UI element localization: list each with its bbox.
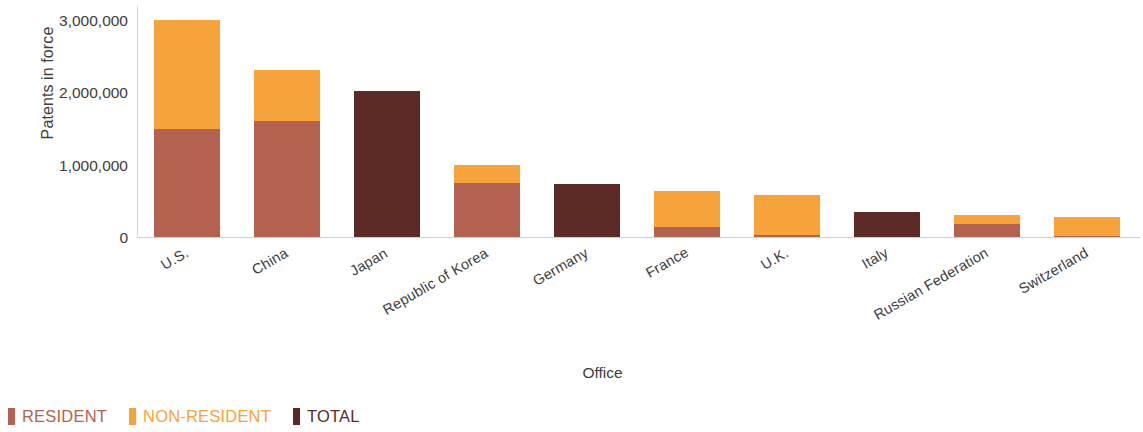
x-axis-tick-label: Republic of Korea — [380, 244, 491, 317]
bar-republic-of-korea[interactable] — [454, 165, 520, 238]
y-axis-tick-label: 3,000,000 — [8, 13, 128, 29]
x-axis-tick-label: Germany — [530, 244, 591, 288]
x-axis-ticks: U.S.ChinaJapanRepublic of KoreaGermanyFr… — [137, 238, 1140, 358]
bar-france[interactable] — [654, 191, 720, 237]
bar-segment-non-resident — [654, 191, 720, 227]
bar-germany[interactable] — [554, 184, 620, 237]
bar-u-k[interactable] — [754, 195, 820, 237]
bar-segment-non-resident — [454, 165, 520, 184]
x-axis-tick-label: China — [249, 244, 291, 277]
legend-label: RESIDENT — [22, 408, 107, 425]
bar-segment-non-resident — [754, 195, 820, 235]
legend-label: NON-RESIDENT — [143, 408, 271, 425]
bar-segment-non-resident — [1054, 217, 1120, 235]
bar-segment-non-resident — [154, 20, 220, 129]
x-axis-tick-label: U.S. — [158, 244, 191, 272]
y-axis-tick-label: 1,000,000 — [8, 158, 128, 174]
y-axis-tick-label: 0 — [8, 230, 128, 246]
bar-segment-total — [554, 184, 620, 237]
x-axis-title: Office — [0, 364, 1143, 382]
bar-segment-non-resident — [254, 70, 320, 122]
bar-segment-resident — [454, 183, 520, 237]
y-axis-tick-label: 2,000,000 — [8, 85, 128, 101]
legend-item-total[interactable]: TOTAL — [293, 408, 360, 425]
bar-segment-resident — [254, 121, 320, 237]
bar-switzerland[interactable] — [1054, 217, 1120, 237]
bar-segment-total — [854, 212, 920, 237]
legend-item-non-resident[interactable]: NON-RESIDENT — [129, 408, 271, 425]
chart-legend: RESIDENTNON-RESIDENTTOTAL — [8, 408, 360, 425]
x-axis-tick-label: France — [643, 244, 691, 281]
bar-italy[interactable] — [854, 212, 920, 237]
bar-segment-resident — [154, 129, 220, 237]
bar-segment-resident — [1054, 236, 1120, 237]
x-axis-tick-label: Japan — [347, 244, 390, 278]
x-axis-tick-label: Switzerland — [1016, 244, 1091, 296]
bar-segment-resident — [754, 235, 820, 237]
x-axis-tick-label: U.K. — [758, 244, 791, 272]
bar-russian-federation[interactable] — [954, 215, 1020, 237]
bar-segment-resident — [654, 227, 720, 237]
x-axis-title-text: Office — [520, 364, 622, 381]
patents-in-force-chart: Patents in force 01,000,0002,000,0003,00… — [0, 0, 1143, 432]
x-axis-tick-label: Italy — [859, 244, 891, 272]
bar-segment-total — [354, 91, 420, 237]
bar-u-s[interactable] — [154, 20, 220, 238]
legend-swatch-icon — [8, 408, 15, 425]
legend-item-resident[interactable]: RESIDENT — [8, 408, 107, 425]
bar-china[interactable] — [254, 70, 320, 237]
legend-label: TOTAL — [307, 408, 360, 425]
legend-swatch-icon — [293, 408, 300, 425]
bar-segment-non-resident — [954, 215, 1020, 224]
legend-swatch-icon — [129, 408, 136, 425]
bar-japan[interactable] — [354, 91, 420, 237]
plot-area — [137, 5, 1137, 237]
bar-segment-resident — [954, 224, 1020, 237]
